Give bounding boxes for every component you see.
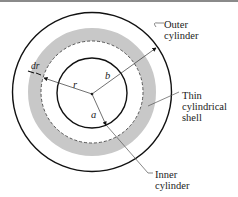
- inner-cylinder-label: Innercylinder: [155, 169, 189, 191]
- shell-label: Thincylindricalshell: [182, 90, 227, 123]
- b-label: b: [105, 70, 110, 81]
- a-label: a: [91, 109, 96, 120]
- r-label: r: [73, 79, 77, 90]
- thin-cylindrical-shell: [35, 35, 150, 150]
- outer-leader: [154, 23, 164, 27]
- radius-r-arrow: [44, 78, 92, 94]
- dr-label: dr: [31, 61, 39, 72]
- outer-cylinder-label: Outercylinder: [164, 19, 198, 41]
